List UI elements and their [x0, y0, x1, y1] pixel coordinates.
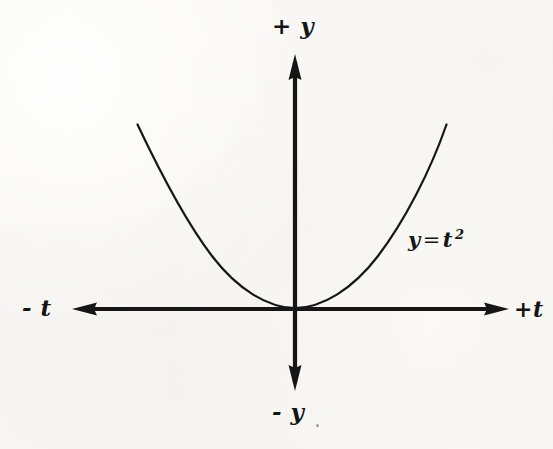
- equation-exponent: 2: [455, 227, 465, 242]
- axis-label-negative-t: - t: [22, 296, 52, 319]
- y-axis-group: [289, 54, 302, 391]
- t-axis-left-arrowhead: [72, 303, 97, 316]
- axis-label-positive-y: + y: [272, 14, 314, 37]
- figure-canvas: + y - y - t +t y=t2: [0, 0, 553, 449]
- t-axis-right-arrowhead: [484, 303, 509, 316]
- y-axis-bottom-arrowhead: [289, 365, 302, 391]
- curve-equation-label: y=t2: [408, 228, 465, 251]
- equation-left-variable: y: [408, 227, 421, 252]
- parabola-curve: [138, 125, 447, 309]
- axis-label-positive-t: +t: [514, 298, 544, 320]
- figure-drawing: [0, 0, 553, 449]
- equation-right-variable: t: [443, 227, 453, 252]
- axis-label-negative-y: - y: [272, 400, 304, 423]
- equation-equals-sign: =: [423, 228, 441, 252]
- y-axis-top-arrowhead: [289, 54, 302, 80]
- stray-ink-dot: [316, 424, 319, 427]
